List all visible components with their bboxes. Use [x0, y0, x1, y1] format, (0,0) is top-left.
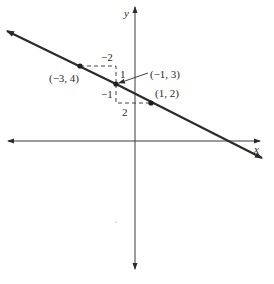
graph-canvas	[0, 0, 274, 284]
rise-label-lower: −1	[101, 89, 113, 100]
x-axis-label: x	[254, 144, 259, 155]
rise-label-upper: 1	[120, 69, 126, 80]
scan-speck	[115, 221, 117, 223]
point-1-2	[148, 100, 153, 105]
y-axis-label: y	[124, 8, 129, 19]
point-label-1-2: (1, 2)	[155, 88, 179, 99]
point-neg3-4	[77, 63, 82, 68]
point-label-neg3-4: (−3, 4)	[49, 73, 79, 84]
coordinate-plane-figure: y x (−3, 4) (−1, 3) (1, 2) −2 1 −1 2	[0, 0, 274, 284]
point-label-neg1-3: (−1, 3)	[150, 69, 180, 80]
run-label-upper: −2	[101, 52, 113, 63]
run-label-lower: 2	[122, 107, 128, 118]
point-neg1-3	[113, 81, 118, 86]
